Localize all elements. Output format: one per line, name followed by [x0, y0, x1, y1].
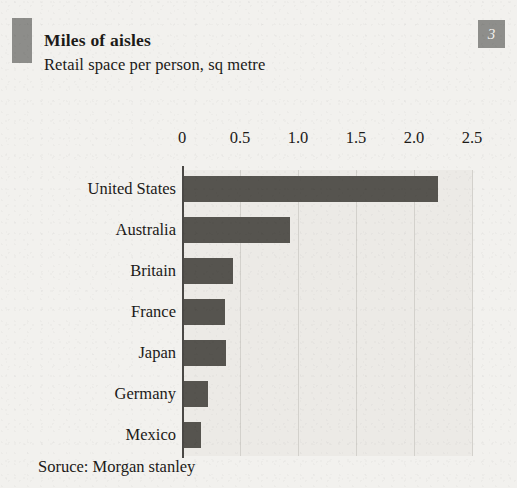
x-tick-label: 2.5	[462, 128, 483, 148]
chart-number-badge: 3	[478, 20, 505, 48]
chart-subtitle: Retail space per person, sq metre	[44, 55, 265, 75]
x-tick-label: 0.5	[230, 128, 251, 148]
x-tick-label: 2.0	[404, 128, 425, 148]
chart-page: 3 Miles of aisles Retail space per perso…	[0, 0, 517, 488]
chart-title: Miles of aisles	[44, 30, 151, 51]
bar	[182, 422, 201, 448]
category-label: France	[131, 302, 176, 322]
bar	[182, 381, 208, 407]
bar-chart: 00.51.01.52.02.5 United StatesAustraliaB…	[0, 128, 517, 448]
category-label: Britain	[130, 261, 176, 281]
gridline	[298, 170, 299, 456]
plot-area	[182, 170, 472, 456]
x-tick-label: 1.0	[288, 128, 309, 148]
gridline	[356, 170, 357, 456]
category-label: United States	[88, 179, 176, 199]
bar	[182, 299, 225, 325]
gridline	[472, 170, 473, 456]
bar	[182, 340, 226, 366]
x-tick-label: 0	[178, 128, 186, 148]
x-tick-label: 1.5	[346, 128, 367, 148]
category-label: Australia	[116, 220, 176, 240]
y-axis-category-labels: United StatesAustraliaBritainFranceJapan…	[0, 170, 176, 456]
category-label: Germany	[115, 384, 176, 404]
bar	[182, 176, 438, 202]
category-label: Mexico	[126, 425, 176, 445]
bar	[182, 258, 233, 284]
source-note: Soruce: Morgan stanley	[38, 457, 195, 477]
accent-block	[12, 18, 32, 63]
gridline	[240, 170, 241, 456]
x-axis-zero-line	[182, 166, 184, 458]
gridline	[414, 170, 415, 456]
bar	[182, 217, 290, 243]
category-label: Japan	[138, 343, 176, 363]
